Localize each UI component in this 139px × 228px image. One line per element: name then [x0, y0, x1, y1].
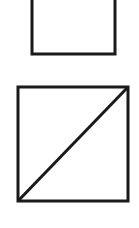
top-square — [32, 0, 115, 54]
bottom-square-group — [18, 87, 128, 201]
diagram-canvas — [0, 0, 139, 228]
